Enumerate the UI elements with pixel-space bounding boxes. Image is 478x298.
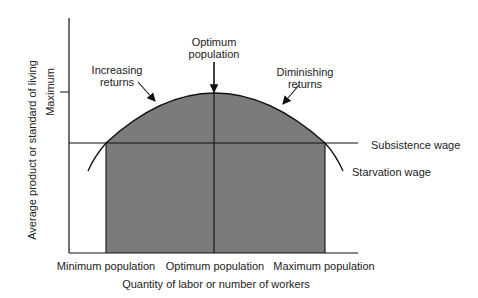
- y-tick-maximum: Maximum: [44, 68, 56, 116]
- x-tick-min: Minimum population: [57, 260, 155, 272]
- diminishing-label-1: Diminishing: [277, 66, 334, 78]
- starvation-label: Starvation wage: [352, 166, 431, 178]
- x-axis-label: Quantity of labor or number of workers: [122, 278, 310, 290]
- y-axis-label: Average product or standard of living: [26, 60, 38, 240]
- optimum-label-1: Optimum: [192, 36, 237, 48]
- increasing-label-1: Increasing: [92, 64, 143, 76]
- optimum-label-2: population: [189, 48, 240, 60]
- x-tick-max: Maximum population: [273, 260, 375, 272]
- diminishing-label-2: returns: [288, 78, 323, 90]
- subsistence-label: Subsistence wage: [371, 139, 460, 151]
- x-tick-opt: Optimum population: [166, 260, 264, 272]
- increasing-label-2: returns: [100, 76, 135, 88]
- population-diagram: Optimum population Increasing returns Di…: [0, 0, 478, 298]
